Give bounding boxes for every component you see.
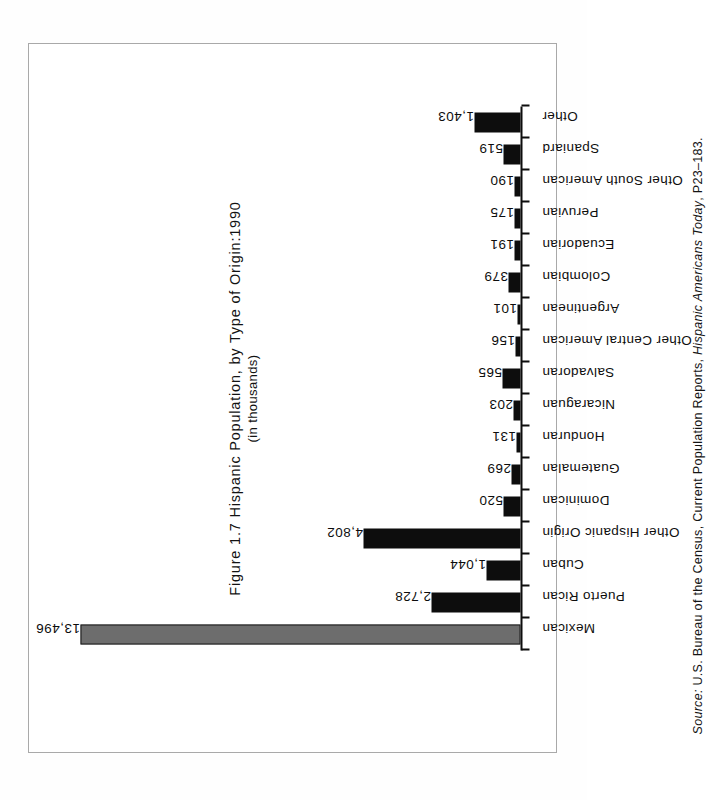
category-label-salvadoran: Salvadoran	[542, 365, 710, 380]
value-label-puerto-rican: 2,728	[394, 589, 430, 604]
source-lead: Source:	[690, 689, 704, 734]
value-label-ecuadorian: 191	[489, 237, 513, 252]
axis-tick	[521, 393, 529, 395]
bar-other-south-american	[514, 177, 520, 196]
value-label-other-central-american: 156	[490, 333, 514, 348]
category-label-other-south-american: Other South American	[542, 173, 710, 188]
value-label-colombian: 379	[483, 269, 507, 284]
category-label-colombian: Colombian	[542, 269, 710, 284]
bar-other	[474, 113, 520, 132]
category-label-cuban: Cuban	[542, 557, 710, 572]
bar-peruvian	[514, 209, 520, 228]
category-label-honduran: Honduran	[542, 429, 710, 444]
category-label-mexican: Mexican	[542, 621, 710, 636]
category-label-guatemalan: Guatemalan	[542, 461, 710, 476]
value-label-other-hispanic-origin: 4,802	[327, 525, 363, 540]
value-label-salvadoran: 565	[477, 365, 501, 380]
bar-mexican	[80, 625, 520, 644]
category-label-nicaraguan: Nicaraguan	[542, 397, 710, 412]
axis-tick	[521, 265, 529, 267]
category-label-argentinean: Argentinean	[542, 301, 710, 316]
axis-tick	[521, 169, 529, 171]
category-label-other-central-american: Other Central American	[542, 333, 710, 348]
rotated-figure-canvas: Figure 1.7 Hispanic Population, by Type …	[30, 49, 555, 749]
axis-tick	[521, 201, 529, 203]
category-label-other-hispanic-origin: Other Hispanic Origin	[542, 525, 710, 540]
bar-other-hispanic-origin	[363, 529, 520, 548]
value-label-other: 1,403	[437, 109, 473, 124]
axis-tick	[521, 489, 529, 491]
bar-other-central-american	[515, 337, 520, 356]
bar-puerto-rican	[431, 593, 520, 612]
bar-spaniard	[503, 145, 520, 164]
value-label-cuban: 1,044	[449, 557, 485, 572]
bar-dominican	[503, 497, 520, 516]
category-label-dominican: Dominican	[542, 493, 710, 508]
axis-tick	[521, 649, 529, 651]
axis-tick	[521, 585, 529, 587]
axis-tick	[521, 617, 529, 619]
value-label-honduran: 131	[491, 429, 515, 444]
category-label-spaniard: Spaniard	[542, 141, 710, 156]
axis-tick	[521, 329, 529, 331]
axis-tick	[521, 457, 529, 459]
category-label-ecuadorian: Ecuadorian	[542, 237, 710, 252]
figure-frame: Figure 1.7 Hispanic Population, by Type …	[28, 43, 557, 753]
axis-tick	[521, 521, 529, 523]
axis-tick	[521, 105, 529, 107]
axis-tick	[521, 137, 529, 139]
axis-tick	[521, 297, 529, 299]
axis-tick	[521, 553, 529, 555]
value-label-dominican: 520	[479, 493, 503, 508]
bar-nicaraguan	[513, 401, 520, 420]
bar-ecuadorian	[514, 241, 520, 260]
bar-colombian	[508, 273, 520, 292]
category-label-peruvian: Peruvian	[542, 205, 710, 220]
bar-cuban	[486, 561, 520, 580]
value-label-argentinean: 101	[492, 301, 516, 316]
bar-argentinean	[517, 305, 520, 324]
value-label-nicaraguan: 203	[489, 397, 513, 412]
axis-tick	[521, 361, 529, 363]
bar-honduran	[516, 433, 520, 452]
axis-tick	[521, 233, 529, 235]
bar-salvadoran	[502, 369, 520, 388]
value-label-other-south-american: 190	[489, 173, 513, 188]
value-label-spaniard: 519	[479, 141, 503, 156]
value-label-guatemalan: 269	[487, 461, 511, 476]
axis-tick	[521, 425, 529, 427]
bar-guatemalan	[511, 465, 520, 484]
category-label-puerto-rican: Puerto Rican	[542, 589, 710, 604]
category-label-other: Other	[542, 109, 710, 124]
value-label-peruvian: 175	[490, 205, 514, 220]
value-label-mexican: 13,496	[35, 621, 79, 636]
